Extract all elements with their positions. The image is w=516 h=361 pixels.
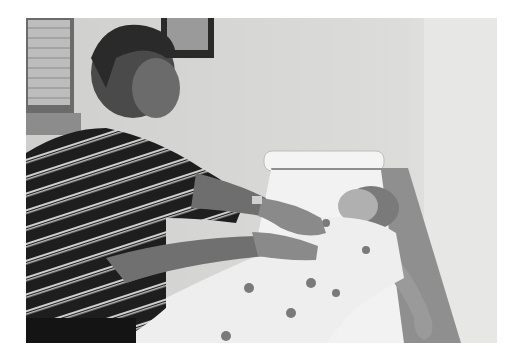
man-face — [132, 58, 180, 118]
photo-illustration — [26, 18, 497, 343]
photograph: A man in a striped polo shirt places his… — [26, 18, 497, 343]
wristwatch — [252, 196, 262, 204]
lower-shadow — [26, 318, 136, 343]
window-blinds — [26, 18, 81, 135]
